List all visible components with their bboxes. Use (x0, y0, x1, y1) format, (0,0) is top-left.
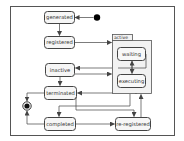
state-completed[interactable]: completed (45, 118, 76, 131)
completed-label: completed (46, 121, 74, 128)
executing-label: executing (119, 78, 144, 85)
registered-label: registered (46, 39, 72, 46)
active-label: active (114, 35, 128, 40)
generated-label: generated (46, 14, 73, 21)
state-generated[interactable]: generated (45, 12, 75, 24)
state-re-registered[interactable]: re-registered (116, 118, 151, 131)
inactive-label: inactive (50, 67, 71, 73)
state-registered[interactable]: registered (45, 37, 75, 49)
initial-state-icon (94, 14, 100, 20)
re-registered-label: re-registered (116, 121, 149, 128)
state-inactive[interactable]: inactive (46, 64, 75, 77)
state-executing[interactable]: executing (118, 75, 146, 88)
terminated-label: terminated (46, 90, 75, 96)
state-waiting[interactable]: waiting (118, 48, 146, 61)
state-diagram: active waiting executing generated regis… (0, 0, 184, 141)
waiting-label: waiting (122, 51, 141, 58)
state-terminated[interactable]: terminated (45, 87, 77, 100)
final-state-icon (23, 102, 31, 110)
